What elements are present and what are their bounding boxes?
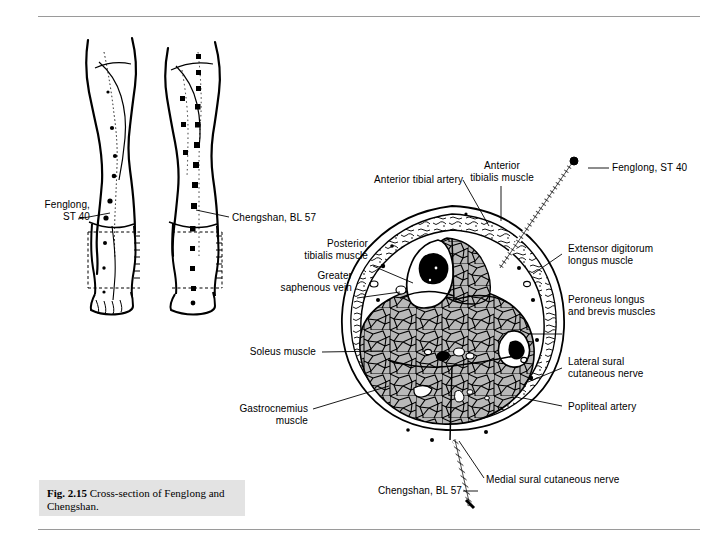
label-popliteal-artery: Popliteal artery xyxy=(568,401,636,413)
cross-section-drawing xyxy=(342,206,564,444)
label-acupoint-chengshan: Chengshan, BL 57 xyxy=(358,485,462,497)
figure-page: Fenglong, ST 40 Chengshan, BL 57 Anterio… xyxy=(0,0,718,552)
label-acupoint-fenglong: Fenglong, ST 40 xyxy=(612,162,687,174)
needle-chengshan xyxy=(455,440,474,508)
tibia-marrow xyxy=(419,253,449,284)
label-greater-saphenous-vein-line2: saphenous vein xyxy=(242,282,352,294)
label-chengshan-leg: Chengshan, BL 57 xyxy=(232,212,316,224)
label-gastrocnemius-line2: muscle xyxy=(198,415,308,427)
leg-label-leaders xyxy=(78,210,229,219)
figure-caption-number: Fig. 2.15 xyxy=(47,487,87,499)
label-posterior-tibialis-line2: tibialis muscle xyxy=(258,250,368,262)
leg-diagram-anterior xyxy=(86,38,140,315)
label-peroneus-line1: Peroneus longus xyxy=(568,294,645,306)
label-anterior-tibialis-line2: tibialis muscle xyxy=(458,172,546,184)
label-fenglong-leg-line2: ST 40 xyxy=(18,211,90,223)
label-peroneus-line2: and brevis muscles xyxy=(568,306,655,318)
label-lateral-sural-line1: Lateral sural xyxy=(568,356,624,368)
label-extensor-digitorum-line1: Extensor digitorum xyxy=(568,243,653,255)
label-posterior-tibialis-line1: Posterior xyxy=(258,238,368,250)
figure-caption: Fig. 2.15 Cross-section of Fenglong and … xyxy=(47,487,243,513)
label-gastrocnemius-line1: Gastrocnemius xyxy=(198,403,308,415)
leg-diagram-posterior xyxy=(165,42,222,315)
label-greater-saphenous-vein-line1: Greater xyxy=(242,270,352,282)
label-fenglong-leg-line1: Fenglong, xyxy=(18,199,90,211)
label-anterior-tibialis-line1: Anterior xyxy=(458,160,546,172)
label-medial-sural-cutaneous-nerve: Medial sural cutaneous nerve xyxy=(486,474,619,486)
label-lateral-sural-line2: cutaneous nerve xyxy=(568,368,643,380)
label-soleus-muscle: Soleus muscle xyxy=(220,346,316,358)
figure-artwork xyxy=(0,0,718,552)
label-anterior-tibial-artery: Anterior tibial artery xyxy=(333,174,463,186)
label-extensor-digitorum-line2: longus muscle xyxy=(568,255,633,267)
